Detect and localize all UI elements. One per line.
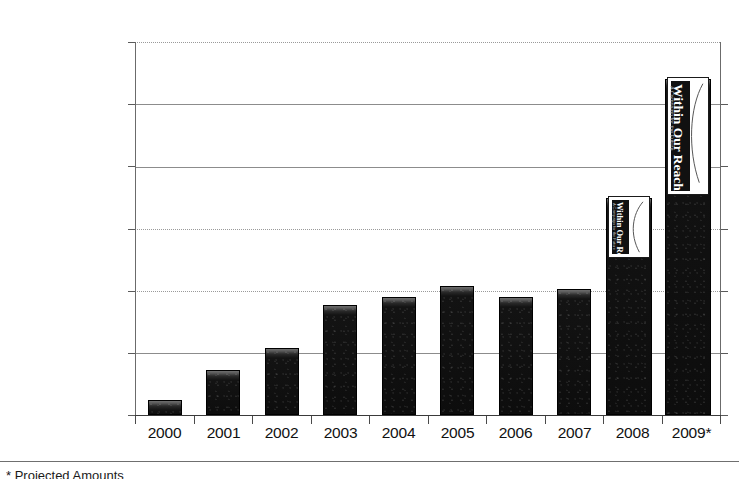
x-axis-label-2000: 2000 [135, 424, 194, 442]
footer-divider [0, 461, 739, 462]
y-tick-right [721, 353, 728, 354]
y-tick [128, 42, 135, 43]
y-tick-right [721, 291, 728, 292]
x-axis-label-2004: 2004 [369, 424, 428, 442]
bar-2006 [499, 297, 533, 415]
y-tick-right [721, 415, 728, 416]
logo-subtitle-2008: A Campaign for the Future [612, 203, 616, 250]
x-axis-label-2008: 2008 [603, 424, 662, 442]
bar-2005 [440, 286, 474, 415]
x-tick [194, 416, 195, 424]
y-tick [128, 415, 135, 416]
gridline-12m [135, 42, 720, 43]
bar-2000 [148, 400, 182, 416]
bar-2007 [557, 289, 591, 415]
y-tick [128, 229, 135, 230]
y-axis-line [135, 42, 136, 416]
y-tick-right [721, 104, 728, 105]
x-axis-label-2003: 2003 [311, 424, 370, 442]
bar-2002 [265, 348, 299, 415]
bar-2001 [206, 370, 240, 415]
bar-2004 [382, 297, 416, 415]
x-axis-label-2005: 2005 [428, 424, 487, 442]
y-tick [128, 291, 135, 292]
within-our-reach-logo-2008: Within Our Reach A Campaign for the Futu… [608, 196, 650, 258]
x-axis-label-2001: 2001 [194, 424, 253, 442]
y-tick-right [721, 166, 728, 167]
x-axis-label-2006: 2006 [486, 424, 545, 442]
x-tick [603, 416, 604, 424]
x-tick [369, 416, 370, 424]
footnote-projected-amounts: * Projected Amounts [6, 468, 124, 479]
x-tick [252, 416, 253, 424]
within-our-reach-logo-2009: Within Our Reach A Campaign for the Futu… [667, 77, 709, 195]
x-tick [545, 416, 546, 424]
x-tick [311, 416, 312, 424]
x-axis-label-2009: 2009* [662, 424, 721, 442]
x-tick [662, 416, 663, 424]
y-tick [128, 353, 135, 354]
y-tick [128, 166, 135, 167]
x-axis-label-2007: 2007 [545, 424, 604, 442]
x-tick [720, 416, 721, 424]
logo-subtitle-2009: A Campaign for the Future [670, 86, 674, 151]
gridline-10m [135, 104, 720, 105]
gridline-8m [135, 167, 720, 168]
bar-2003 [323, 305, 357, 415]
y-tick-right [721, 229, 728, 230]
bar-chart: $12,000,000 $10,000,000 $8,000,000 $6,00… [0, 0, 739, 479]
y-tick [128, 104, 135, 105]
x-tick [486, 416, 487, 424]
x-tick [428, 416, 429, 424]
x-tick [135, 416, 136, 424]
x-axis-label-2002: 2002 [252, 424, 311, 442]
